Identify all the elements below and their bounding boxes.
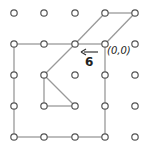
grid-dot xyxy=(72,41,78,47)
grid-dot xyxy=(11,72,17,78)
grid-dot xyxy=(132,72,138,78)
grid-dot xyxy=(72,134,78,140)
edge-line xyxy=(44,44,75,75)
grid-dot xyxy=(41,72,47,78)
edge-line xyxy=(44,75,75,106)
origin-label: (0,0) xyxy=(107,45,131,56)
grid-dot xyxy=(132,134,138,140)
grid-canvas xyxy=(0,0,146,152)
grid-dot xyxy=(41,10,47,16)
grid-dot xyxy=(102,10,108,16)
grid-dot xyxy=(72,103,78,109)
grid-dot xyxy=(132,10,138,16)
grid-dot xyxy=(132,103,138,109)
edge-line xyxy=(75,13,105,44)
grid-dot xyxy=(102,72,108,78)
arrow-number-label: 6 xyxy=(85,55,93,69)
grid-dot xyxy=(41,103,47,109)
geoboard-diagram: (0,0) 6 xyxy=(0,0,146,152)
grid-dot xyxy=(11,103,17,109)
grid-dot xyxy=(11,10,17,16)
grid-dot xyxy=(11,41,17,47)
grid-dot xyxy=(102,134,108,140)
grid-dot xyxy=(41,134,47,140)
edge-line xyxy=(105,13,135,44)
grid-dot xyxy=(11,134,17,140)
grid-dot xyxy=(41,41,47,47)
grid-dot xyxy=(72,72,78,78)
grid-dot xyxy=(102,103,108,109)
grid-dot xyxy=(72,10,78,16)
grid-dot xyxy=(132,41,138,47)
